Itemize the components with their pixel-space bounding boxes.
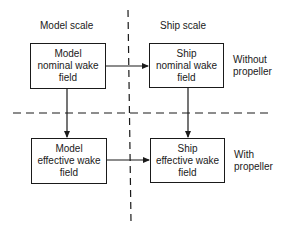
box-line: Model xyxy=(55,143,82,155)
model-effective-wake-field-box: Model effective wake field xyxy=(31,138,107,184)
box-line: field xyxy=(177,72,195,84)
box-line: effective wake xyxy=(156,155,219,167)
box-line: field xyxy=(178,167,196,179)
box-line: field xyxy=(59,72,77,84)
ship-effective-wake-field-box: Ship effective wake field xyxy=(150,138,225,183)
model-nominal-wake-field-box: Model nominal wake field xyxy=(30,43,106,89)
row-label-line: propeller xyxy=(234,161,273,173)
box-line: field xyxy=(60,167,78,179)
row-label-without-propeller: Without propeller xyxy=(233,54,272,78)
column-header-ship-scale: Ship scale xyxy=(160,20,206,32)
row-label-with-propeller: With propeller xyxy=(234,149,273,173)
box-line: nominal wake xyxy=(37,60,98,72)
box-line: Ship xyxy=(176,48,196,60)
box-line: Ship xyxy=(177,143,197,155)
connector-lines xyxy=(0,0,284,232)
box-line: effective wake xyxy=(37,155,100,167)
box-line: Model xyxy=(54,48,81,60)
row-label-line: Without xyxy=(233,54,272,66)
ship-nominal-wake-field-box: Ship nominal wake field xyxy=(149,43,224,88)
column-header-model-scale: Model scale xyxy=(40,20,93,32)
row-label-line: With xyxy=(234,149,273,161)
scale-divider-line xyxy=(128,10,131,222)
box-line: nominal wake xyxy=(156,60,217,72)
row-label-line: propeller xyxy=(233,66,272,78)
